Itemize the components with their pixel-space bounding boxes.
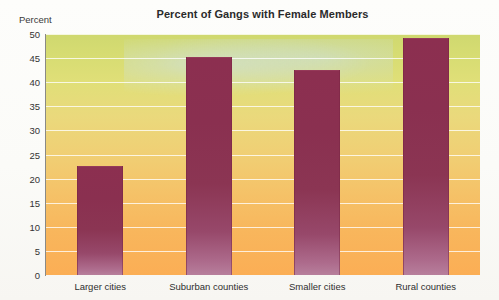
- y-axis-line: [45, 34, 46, 276]
- x-category-label: Rural counties: [395, 281, 456, 292]
- bar-top-edge: [187, 57, 231, 58]
- bar: [186, 57, 232, 275]
- chart-page: Percent of Gangs with Female Members Per…: [0, 0, 499, 300]
- plot-area: [46, 34, 480, 275]
- bar-top-edge: [404, 38, 448, 39]
- y-tick-label: 45: [0, 53, 40, 64]
- y-tick-label: 20: [0, 173, 40, 184]
- gridline: [46, 34, 480, 35]
- y-tick-label: 10: [0, 221, 40, 232]
- y-axis-title: Percent: [19, 14, 52, 25]
- bar-top-edge: [78, 166, 122, 167]
- y-tick-label: 15: [0, 197, 40, 208]
- x-category-label: Larger cities: [74, 281, 126, 292]
- bar: [403, 38, 449, 275]
- bar-top-edge: [295, 70, 339, 71]
- bar: [294, 70, 340, 275]
- y-tick-label: 30: [0, 125, 40, 136]
- y-tick-label: 25: [0, 149, 40, 160]
- x-category-label: Smaller cities: [289, 281, 346, 292]
- chart-title: Percent of Gangs with Female Members: [0, 8, 499, 20]
- y-tick-label: 40: [0, 77, 40, 88]
- y-tick-label: 35: [0, 101, 40, 112]
- y-tick-label: 0: [0, 270, 40, 281]
- y-tick-label: 50: [0, 29, 40, 40]
- y-tick-label: 5: [0, 245, 40, 256]
- bar: [77, 166, 123, 275]
- x-category-label: Suburban counties: [169, 281, 248, 292]
